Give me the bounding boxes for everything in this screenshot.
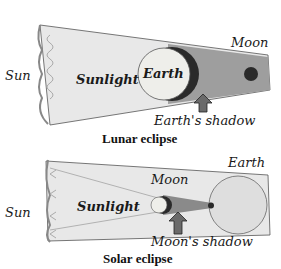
- lunar-eclipse-title: Lunar eclipse: [102, 131, 177, 147]
- solar-eclipse-title: Solar eclipse: [103, 251, 172, 267]
- lunar-sun-label: Sun: [5, 68, 31, 83]
- solar-sunlight-label: Sunlight: [77, 199, 140, 214]
- solar-earth-label: Earth: [228, 155, 265, 170]
- lunar-moon-label: Moon: [231, 35, 268, 50]
- lunar-earth-label: Earth: [143, 66, 184, 81]
- solar-moon: [151, 197, 167, 213]
- lunar-sunlight-label: Sunlight: [76, 72, 139, 87]
- lunar-shadow-label: Earth's shadow: [154, 113, 256, 128]
- solar-shadow-label: Moon's shadow: [151, 234, 253, 249]
- lunar-moon: [244, 67, 258, 81]
- solar-umbra-spot: [208, 203, 214, 209]
- solar-earth: [209, 176, 267, 234]
- solar-sun-label: Sun: [5, 205, 31, 220]
- solar-moon-label: Moon: [151, 172, 188, 187]
